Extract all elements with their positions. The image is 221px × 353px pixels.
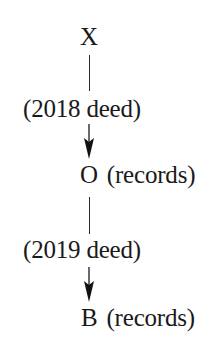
edge-label-2018-deed: (2018 deed) (23, 96, 141, 121)
connector-line-o-to-b (89, 197, 90, 234)
arrow-down-icon (82, 124, 96, 160)
node-b: B(records) (81, 305, 195, 330)
chain-of-title-diagram: X (2018 deed) O(records) (2019 deed) B(r… (0, 0, 221, 353)
arrow-down-icon (82, 267, 96, 303)
node-o: O(records) (80, 162, 195, 187)
node-b-note: (records) (106, 305, 194, 330)
node-o-note: (records) (107, 162, 195, 187)
node-x-name: X (80, 24, 98, 49)
connector-line-x-to-o (89, 55, 90, 91)
node-o-name: O (80, 162, 98, 187)
node-b-name: B (81, 305, 97, 330)
edge-label-2019-deed: (2019 deed) (23, 237, 141, 262)
node-x: X (80, 24, 98, 49)
